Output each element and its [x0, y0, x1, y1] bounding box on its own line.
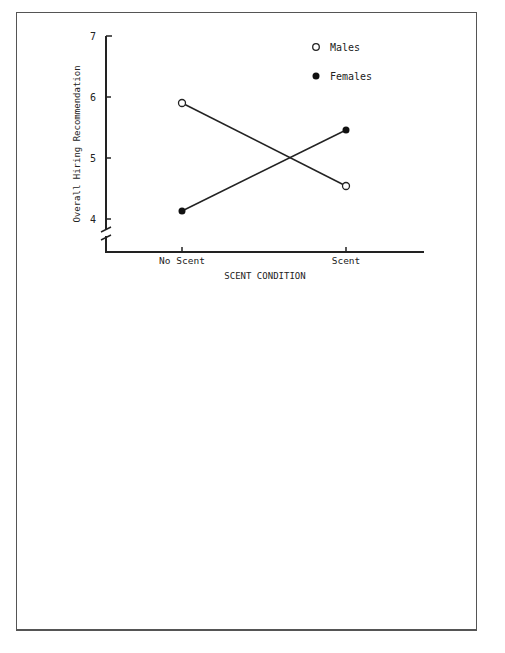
y-tick-7: 7: [90, 31, 96, 42]
male-scent-point: [343, 183, 350, 190]
male-no-scent-point: [179, 100, 186, 107]
female-no-scent-point: [179, 208, 186, 215]
y-tick-4: 4: [90, 214, 96, 225]
x-axis-label: SCENT CONDITION: [224, 271, 305, 281]
males-line: [182, 103, 346, 186]
x-tick-scent: Scent: [332, 255, 361, 266]
y-tick-5: 5: [90, 153, 96, 164]
females-line: [182, 130, 346, 211]
legend-filled-circle-icon: [313, 73, 320, 80]
female-scent-point: [343, 127, 350, 134]
x-tick-no-scent: No Scent: [159, 255, 205, 266]
y-axis-label: Overall Hiring Recommendation: [72, 65, 82, 222]
legend-males: Males: [330, 42, 360, 53]
legend-females: Females: [330, 71, 372, 82]
legend-open-circle-icon: [313, 44, 320, 51]
y-tick-6: 6: [90, 92, 96, 103]
chart: 7 6 5 4 No Scent Scent SCENT CONDITION O…: [0, 0, 505, 653]
